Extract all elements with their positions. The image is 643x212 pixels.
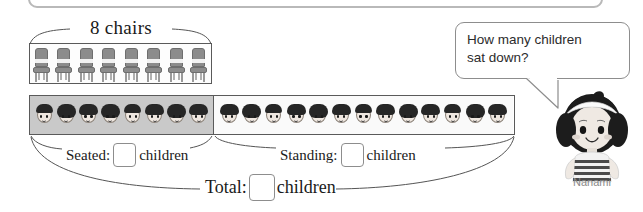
- child-face-icon: [242, 104, 261, 126]
- child-face-icon: [101, 104, 120, 126]
- seated-label: Seated:: [66, 147, 110, 164]
- child-face-icon: [220, 104, 239, 126]
- chair-icon: [167, 47, 187, 82]
- seated-unit: children: [139, 147, 188, 164]
- standing-brace-left: [215, 136, 276, 148]
- chair-icon: [54, 47, 74, 82]
- chair-icon: [77, 47, 97, 82]
- character-nanami-avatar: [553, 90, 631, 190]
- child-face-icon: [376, 104, 395, 126]
- total-answer-row: Total: children: [205, 174, 336, 201]
- children-row: [29, 95, 515, 135]
- child-face-icon: [79, 104, 98, 126]
- child-face-icon: [399, 104, 418, 126]
- chair-icon: [189, 47, 209, 82]
- seated-brace-left: [31, 136, 62, 149]
- seated-children-segment: [30, 96, 214, 134]
- total-label: Total:: [205, 177, 247, 198]
- total-unit: children: [277, 177, 336, 198]
- seated-answer-row: Seated: children: [66, 143, 188, 167]
- standing-unit: children: [367, 147, 416, 164]
- child-face-icon: [309, 104, 328, 126]
- child-face-icon: [332, 104, 351, 126]
- standing-answer-box[interactable]: [341, 143, 364, 167]
- speech-bubble: How many children sat down?: [455, 22, 630, 79]
- child-face-icon: [354, 104, 373, 126]
- seated-answer-box[interactable]: [113, 143, 136, 167]
- standing-children-segment: [214, 96, 513, 134]
- chair-icon: [144, 47, 164, 82]
- standing-brace-right: [445, 136, 514, 148]
- chair-icon: [122, 47, 142, 82]
- speech-line-2: sat down?: [467, 49, 618, 67]
- child-face-icon: [35, 104, 54, 126]
- child-face-icon: [488, 104, 507, 126]
- character-name-label: Nanami: [553, 176, 631, 188]
- standing-answer-row: Standing: children: [280, 143, 416, 167]
- child-face-icon: [443, 104, 462, 126]
- standing-label: Standing:: [280, 147, 338, 164]
- total-answer-box[interactable]: [249, 174, 275, 201]
- chair-icon: [32, 47, 52, 82]
- top-panel-edge: [28, 0, 603, 8]
- child-face-icon: [189, 104, 208, 126]
- chairs-caption: 8 chairs: [60, 17, 182, 39]
- child-face-icon: [167, 104, 186, 126]
- child-face-icon: [123, 104, 142, 126]
- child-face-icon: [145, 104, 164, 126]
- chairs-row: [29, 43, 212, 84]
- child-face-icon: [57, 104, 76, 126]
- chair-icon: [99, 47, 119, 82]
- worksheet-page: 8 chairs: [0, 0, 643, 212]
- child-face-icon: [421, 104, 440, 126]
- child-face-icon: [287, 104, 306, 126]
- speech-line-1: How many children: [467, 31, 618, 49]
- child-face-icon: [466, 104, 485, 126]
- seated-brace-right: [190, 136, 212, 148]
- child-face-icon: [264, 104, 283, 126]
